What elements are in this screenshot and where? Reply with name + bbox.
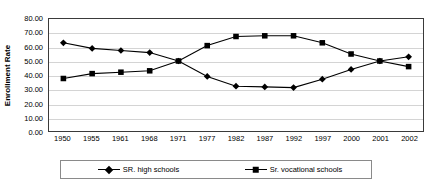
- data-point-square: [406, 64, 412, 70]
- legend-label: SR. high schools: [123, 165, 179, 174]
- series-sr-high-schools: [60, 39, 412, 90]
- x-axis-tick-label: 1997: [314, 134, 331, 143]
- enrollment-rate-line-chart: Enrollment Rate 80.0070.0060.0050.0040.0…: [0, 0, 432, 186]
- data-point-square: [176, 58, 182, 64]
- data-point-diamond: [233, 83, 240, 90]
- y-axis-tick-label: 10.00: [24, 113, 43, 122]
- data-point-square: [204, 43, 210, 49]
- x-axis-tick-label: 1992: [286, 134, 303, 143]
- data-point-diamond: [146, 49, 153, 56]
- data-point-square: [118, 69, 124, 75]
- legend-entry[interactable]: SR. high schools: [61, 165, 216, 175]
- y-axis-tick-label: 40.00: [24, 71, 43, 80]
- y-axis-tick-label: 20.00: [24, 99, 43, 108]
- x-axis-tick-labels: 1950195519611968197119771982198719921997…: [48, 134, 424, 150]
- y-axis-tick-label: 0.00: [28, 128, 43, 137]
- data-point-square: [348, 51, 354, 57]
- data-point-diamond: [204, 73, 211, 80]
- x-axis-tick-label: 1961: [112, 134, 129, 143]
- y-axis-tick-label: 60.00: [24, 42, 43, 51]
- x-axis-tick-label: 2002: [401, 134, 418, 143]
- legend-entry[interactable]: Sr. vocational schools: [216, 165, 371, 175]
- y-axis-title: Enrollment Rate: [0, 18, 16, 132]
- data-point-diamond: [319, 76, 326, 83]
- data-point-diamond: [89, 45, 96, 52]
- x-axis-tick-label: 1950: [54, 134, 71, 143]
- legend-label: Sr. vocational schools: [270, 165, 343, 174]
- series-line: [63, 36, 408, 79]
- y-axis-tick-label: 70.00: [24, 28, 43, 37]
- data-point-diamond: [261, 84, 268, 91]
- data-point-square: [377, 58, 383, 64]
- x-axis-tick-label: 1977: [199, 134, 216, 143]
- y-axis-tick-label: 80.00: [24, 14, 43, 23]
- data-point-square: [320, 40, 326, 46]
- x-axis-tick-label: 2000: [343, 134, 360, 143]
- x-axis-tick-label: 1955: [83, 134, 100, 143]
- x-axis-tick-label: 1971: [170, 134, 187, 143]
- x-axis-tick-label: 2001: [372, 134, 389, 143]
- legend-square-marker-icon: [245, 165, 267, 175]
- data-point-square: [89, 71, 95, 77]
- data-point-square: [61, 76, 67, 82]
- data-point-square: [291, 33, 297, 39]
- chart-legend: SR. high schoolsSr. vocational schools: [60, 160, 372, 179]
- x-axis-tick-label: 1982: [228, 134, 245, 143]
- data-point-square: [147, 68, 153, 74]
- data-point-diamond: [60, 39, 67, 46]
- series-plot: [49, 19, 423, 131]
- plot-area: [48, 18, 424, 132]
- y-axis-title-label: Enrollment Rate: [4, 44, 13, 105]
- data-point-diamond: [290, 84, 297, 91]
- x-axis-tick-label: 1968: [141, 134, 158, 143]
- data-point-diamond: [118, 47, 125, 54]
- y-axis-tick-label: 30.00: [24, 85, 43, 94]
- marker-glyph: [252, 166, 259, 173]
- series-line: [63, 43, 408, 88]
- x-axis-tick-label: 1987: [257, 134, 274, 143]
- y-axis-tick-labels: 80.0070.0060.0050.0040.0030.0020.0010.00…: [16, 18, 46, 132]
- data-point-diamond: [405, 53, 412, 60]
- data-point-square: [262, 33, 268, 39]
- y-axis-tick-label: 50.00: [24, 56, 43, 65]
- series-sr-vocational-schools: [61, 33, 412, 81]
- data-point-square: [233, 34, 239, 40]
- marker-glyph: [105, 165, 113, 173]
- legend-diamond-marker-icon: [98, 165, 120, 175]
- data-point-diamond: [348, 66, 355, 73]
